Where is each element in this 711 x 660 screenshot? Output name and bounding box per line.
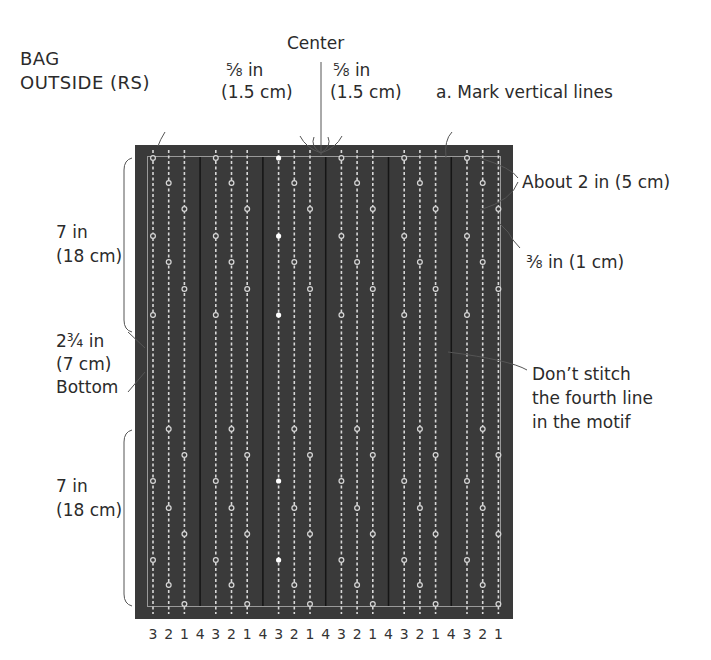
stitch-circle (465, 234, 470, 239)
stitch-circle (433, 602, 438, 607)
stitch-circle (229, 506, 234, 511)
stitch-circle (355, 181, 360, 186)
center-dot (276, 312, 281, 317)
title-leader (158, 132, 165, 146)
stitch-circle (355, 427, 360, 432)
stitch-circle (480, 427, 485, 432)
stitch-circle (229, 260, 234, 265)
stitch-circle (229, 427, 234, 432)
stitch-circle (308, 532, 313, 537)
stitch-circle (370, 602, 375, 607)
line-number: 4 (255, 626, 271, 642)
stitch-circle (433, 287, 438, 292)
stitch-circle (151, 156, 156, 161)
stitch-circle (355, 583, 360, 588)
stitch-circle (182, 207, 187, 212)
stitch-circle (418, 506, 423, 511)
top-height-cm: (18 cm) (56, 246, 122, 267)
line-number: 2 (161, 626, 177, 642)
center-label: Center (287, 33, 344, 54)
stitch-circle (465, 479, 470, 484)
stitch-circle (308, 207, 313, 212)
line-number: 3 (333, 626, 349, 642)
line-number: 3 (208, 626, 224, 642)
line-number: 1 (239, 626, 255, 642)
lower-height-cm: (18 cm) (56, 500, 122, 521)
stitch-circle (245, 207, 250, 212)
center-dot (276, 155, 281, 160)
stitch-circle (166, 506, 171, 511)
line-number: 3 (396, 626, 412, 642)
stitch-circle (418, 583, 423, 588)
stitch-circle (308, 602, 313, 607)
line-number: 2 (349, 626, 365, 642)
stitch-circle (480, 181, 485, 186)
stitch-circle (213, 234, 218, 239)
line-number: 1 (490, 626, 506, 642)
dont-stitch-line-1: Don’t stitch (532, 364, 631, 385)
top-height-in: 7 in (56, 222, 88, 243)
stitch-circle (166, 427, 171, 432)
stitch-circle (213, 313, 218, 318)
stitch-circle (496, 287, 501, 292)
stitch-circle (370, 287, 375, 292)
line-number: 1 (365, 626, 381, 642)
edge-label: ⅜ in (1 cm) (526, 252, 624, 273)
stitch-circle (245, 453, 250, 458)
bottom-cm: (7 cm) (56, 354, 111, 375)
stitch-circle (433, 207, 438, 212)
stitch-circle (339, 313, 344, 318)
stitch-circle (339, 156, 344, 161)
stitch-circle (496, 207, 501, 212)
stitch-circle (370, 453, 375, 458)
stitch-circle (166, 260, 171, 265)
line-number: 2 (412, 626, 428, 642)
dont-stitch-line-3: in the motif (532, 412, 631, 433)
stitch-circle (308, 453, 313, 458)
dont-stitch-line-2: the fourth line (532, 388, 653, 409)
stitch-circle (308, 287, 313, 292)
stitch-circle (339, 479, 344, 484)
line-number: 1 (428, 626, 444, 642)
stitch-circle (355, 506, 360, 511)
stitch-circle (465, 313, 470, 318)
line-number: 4 (192, 626, 208, 642)
stitch-circle (496, 453, 501, 458)
lower-height-in: 7 in (56, 476, 88, 497)
right-margin-in: ⅝ in (333, 60, 370, 81)
bottom-label: Bottom (56, 377, 118, 398)
stitch-circle (418, 427, 423, 432)
stitch-circle (402, 479, 407, 484)
stitch-circle (245, 287, 250, 292)
stitch-circle (229, 181, 234, 186)
stitch-circle (480, 506, 485, 511)
center-dot (276, 557, 281, 562)
stitch-circle (213, 479, 218, 484)
stitch-circle (292, 583, 297, 588)
line-number: 3 (271, 626, 287, 642)
stitch-circle (402, 313, 407, 318)
line-number: 4 (318, 626, 334, 642)
stitch-circle (370, 207, 375, 212)
spacing-label: About 2 in (5 cm) (522, 172, 670, 193)
stitch-circle (339, 234, 344, 239)
stitch-circle (465, 156, 470, 161)
stitch-circle (418, 181, 423, 186)
top-brace (124, 158, 132, 332)
stitch-circle (402, 558, 407, 563)
stitch-circle (182, 602, 187, 607)
line-number: 4 (381, 626, 397, 642)
stitch-circle (402, 234, 407, 239)
line-number: 3 (145, 626, 161, 642)
title-line-2: OUTSIDE (RS) (20, 72, 150, 93)
stitch-circle (370, 532, 375, 537)
stitch-circle (151, 234, 156, 239)
bottom-in: 2¾ in (56, 331, 104, 352)
title-line-1: BAG (20, 48, 60, 69)
stitch-circle (182, 453, 187, 458)
line-number: 2 (475, 626, 491, 642)
stitch-circle (496, 532, 501, 537)
stitch-circle (166, 181, 171, 186)
stitch-circle (465, 558, 470, 563)
step-a-label: a. Mark vertical lines (436, 82, 613, 103)
